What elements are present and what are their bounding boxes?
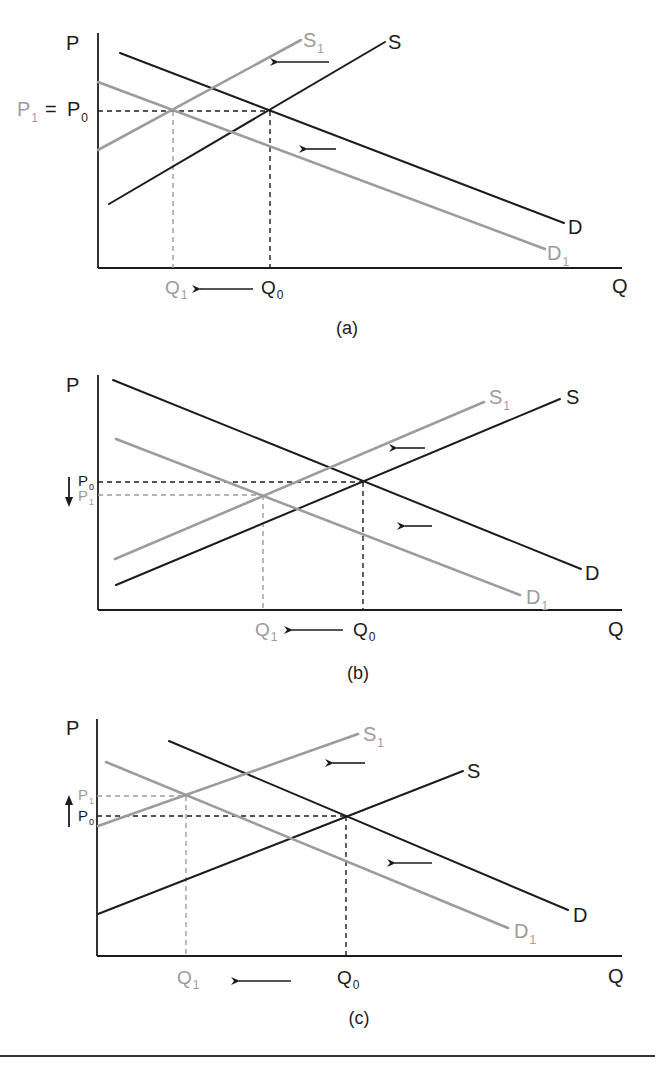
curve-label-s1: S1 [363,723,384,750]
price-label: P1 [78,786,94,806]
quantity-axis-label: Q [608,965,624,987]
curve-label-d1: D1 [514,920,536,947]
quantity-axis-label: Q [612,275,628,297]
curve-d [113,380,581,569]
curve-label-s1: S1 [489,386,510,413]
price-label: P0 [67,98,88,125]
curve-s1 [115,402,484,559]
curve-label-d: D [573,904,587,926]
price-axis-label: P [66,374,79,396]
curve-label-s: S [467,760,480,782]
panel-c: DSS1D1PQP1P0Q1Q0(c) [65,717,624,1028]
curve-label-d1: D1 [547,242,569,269]
price-label: = [45,98,57,120]
supply-demand-figure: DSS1D1PQP1=P0Q1Q0(a)DSS1D1PQP0P1Q1Q0(b)D… [0,0,655,1066]
curve-label-d1: D1 [526,586,548,613]
quantity-label: Q0 [261,277,284,302]
curve-label-s1: S1 [303,29,324,56]
quantity-label: Q0 [337,967,360,992]
panel-b: DSS1D1PQP0P1Q1Q0(b) [65,374,624,683]
quantity-label: Q1 [177,967,200,992]
panel-caption: (a) [336,318,358,338]
panel-caption: (c) [349,1008,370,1028]
curve-d1 [106,762,508,928]
price-label: P1 [17,98,38,125]
curve-s [116,399,560,585]
curve-d [120,53,564,223]
panel-caption: (b) [347,663,369,683]
curve-label-s: S [566,386,579,408]
panel-a: DSS1D1PQP1=P0Q1Q0(a) [17,29,628,338]
curve-label-d: D [568,216,582,238]
curve-label-d: D [585,562,599,584]
price-label: P0 [78,807,94,827]
quantity-label: Q1 [255,619,278,644]
arrowhead-icon [65,497,73,507]
curve-label-s: S [388,31,401,53]
quantity-axis-label: Q [608,618,624,640]
price-axis-label: P [66,32,79,54]
quantity-label: Q1 [165,277,188,302]
quantity-label: Q0 [353,619,376,644]
curve-d [169,741,568,910]
price-axis-label: P [66,717,79,739]
curve-d1 [98,82,545,249]
diagram-canvas: DSS1D1PQP1=P0Q1Q0(a)DSS1D1PQP0P1Q1Q0(b)D… [0,0,655,1066]
arrowhead-icon [65,795,73,805]
